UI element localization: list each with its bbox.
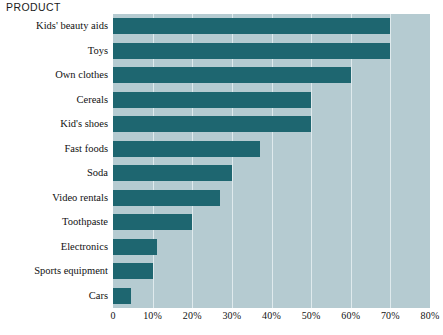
- bar: [113, 288, 131, 304]
- bar: [113, 214, 192, 230]
- bar-chart: PRODUCT Kids' beauty aidsToysOwn clothes…: [0, 0, 443, 335]
- bar: [113, 165, 232, 181]
- category-label: Sports equipment: [3, 265, 113, 277]
- x-tick-label: 0: [110, 310, 115, 321]
- category-label: Kids' beauty aids: [3, 20, 113, 32]
- category-label: Video rentals: [3, 192, 113, 204]
- category-label: Soda: [3, 167, 113, 179]
- plot-area: [113, 14, 430, 308]
- category-label: Kid's shoes: [3, 118, 113, 130]
- x-tick-label: 70%: [381, 310, 400, 321]
- axis-title-product: PRODUCT: [6, 1, 61, 13]
- x-axis-tick-labels: 010%20%30%40%50%60%70%80%: [113, 310, 430, 330]
- bar: [113, 67, 351, 83]
- category-label: Cereals: [3, 94, 113, 106]
- bar: [113, 92, 311, 108]
- gridline: [390, 14, 391, 308]
- x-tick-label: 30%: [222, 310, 241, 321]
- x-tick-label: 50%: [302, 310, 321, 321]
- bar: [113, 18, 390, 34]
- bar: [113, 263, 153, 279]
- category-label: Toothpaste: [3, 216, 113, 228]
- x-tick-label: 60%: [341, 310, 360, 321]
- category-label: Toys: [3, 45, 113, 57]
- category-label: Fast foods: [3, 143, 113, 155]
- category-label: Cars: [3, 290, 113, 302]
- bar: [113, 190, 220, 206]
- category-axis-labels: Kids' beauty aidsToysOwn clothesCerealsK…: [0, 14, 113, 308]
- bar: [113, 116, 311, 132]
- x-tick-label: 40%: [262, 310, 281, 321]
- category-label: Electronics: [3, 241, 113, 253]
- x-tick-label: 80%: [421, 310, 440, 321]
- bar: [113, 141, 260, 157]
- x-tick-label: 20%: [183, 310, 202, 321]
- bar: [113, 239, 157, 255]
- x-tick-label: 10%: [143, 310, 162, 321]
- category-label: Own clothes: [3, 69, 113, 81]
- bar: [113, 43, 390, 59]
